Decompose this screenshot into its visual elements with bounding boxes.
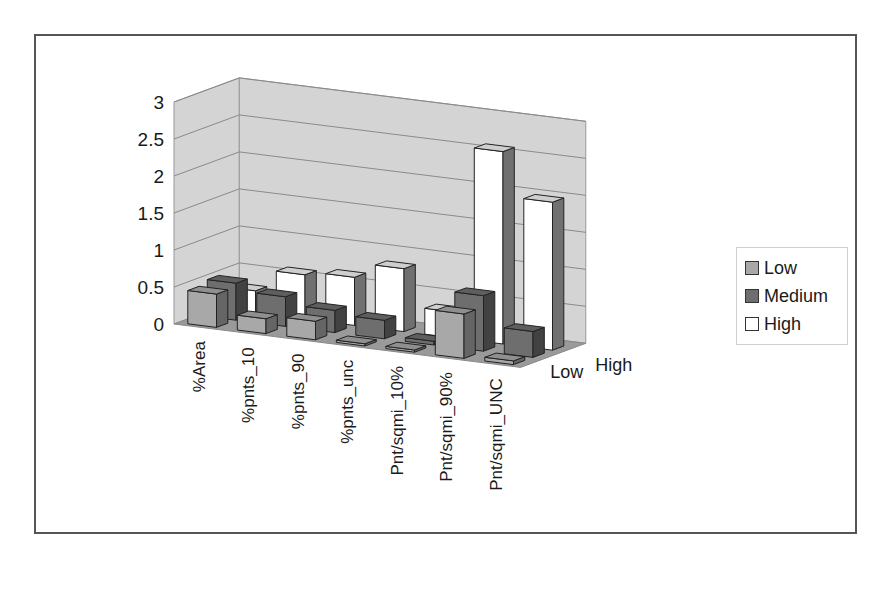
y-tick-label: 2: [153, 166, 164, 187]
bar-low: [435, 306, 475, 358]
y-tick-label: 0.5: [138, 277, 164, 298]
x-tick-label: Pnt/sqmi_90%: [437, 372, 456, 482]
y-tick-label: 3: [153, 92, 164, 113]
legend-label-medium: Medium: [764, 286, 828, 307]
chart-legend: Low Medium High: [736, 247, 848, 345]
y-tick-label: 1.5: [138, 203, 164, 224]
bar-medium: [504, 324, 544, 358]
legend-item-high: High: [745, 310, 839, 338]
x-tick-label: %pnts_90: [289, 354, 308, 430]
legend-swatch-low: [745, 261, 759, 275]
x-tick-label: Pnt/sqmi_10%: [388, 366, 407, 476]
y-tick-label: 1: [153, 240, 164, 261]
bar-low: [287, 314, 327, 340]
bar-medium: [356, 313, 396, 339]
legend-swatch-medium: [745, 289, 759, 303]
depth-label-low: Low: [550, 362, 584, 382]
x-tick-label: %Area: [190, 341, 209, 393]
depth-label-high: High: [595, 355, 632, 375]
x-axis-labels: %Area%pnts_10%pnts_90%pnts_uncPnt/sqmi_1…: [190, 341, 506, 491]
y-tick-label: 2.5: [138, 129, 164, 150]
legend-item-medium: Medium: [745, 282, 839, 310]
y-tick-label: 0: [153, 314, 164, 335]
legend-label-high: High: [764, 314, 801, 335]
x-tick-label: Pnt/sqmi_UNC: [487, 378, 506, 490]
bar-low: [237, 311, 277, 334]
legend-swatch-high: [745, 317, 759, 331]
y-axis-ticks: 00.511.522.53: [138, 92, 164, 335]
bar-low: [188, 286, 228, 327]
legend-item-low: Low: [745, 254, 839, 282]
depth-axis-labels: LowHigh: [550, 355, 632, 381]
x-tick-label: %pnts_10: [239, 347, 258, 423]
x-tick-label: %pnts_unc: [338, 359, 357, 444]
legend-label-low: Low: [764, 258, 797, 279]
